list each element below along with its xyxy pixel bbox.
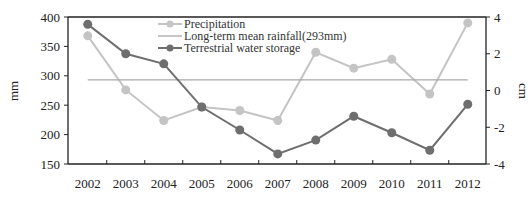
y2-tick-label: 2: [494, 46, 501, 61]
data-point: [83, 20, 92, 29]
x-tick-label: 2005: [189, 176, 215, 191]
y-tick-label: 350: [41, 39, 61, 54]
x-tick-label: 2010: [379, 176, 405, 191]
y2-tick-label: -2: [494, 120, 505, 135]
data-point: [463, 18, 472, 27]
data-point: [349, 112, 358, 121]
data-point: [273, 149, 282, 158]
x-tick-label: 2002: [75, 176, 101, 191]
data-point: [121, 49, 130, 58]
y-tick-label: 300: [41, 68, 61, 83]
x-tick-label: 2011: [417, 176, 443, 191]
x-tick-label: 2004: [151, 176, 178, 191]
legend-marker: [167, 21, 174, 28]
x-tick-label: 2006: [227, 176, 254, 191]
data-point: [235, 126, 244, 135]
chart: 150200250300350400-4-2024200220032004200…: [0, 0, 532, 197]
x-tick-label: 2012: [455, 176, 481, 191]
data-point: [83, 31, 92, 40]
data-point: [387, 128, 396, 137]
x-tick-label: 2003: [113, 176, 139, 191]
data-point: [425, 90, 434, 99]
data-point: [197, 103, 206, 112]
data-point: [273, 116, 282, 125]
data-point: [311, 48, 320, 57]
y-tick-label: 400: [41, 10, 61, 25]
y2-tick-label: -4: [494, 157, 505, 172]
legend-marker: [167, 45, 174, 52]
y-tick-label: 250: [41, 98, 61, 113]
x-tick-label: 2009: [341, 176, 367, 191]
legend-label: Terrestrial water storage: [184, 41, 300, 55]
y2-tick-label: 0: [494, 83, 501, 98]
data-point: [387, 55, 396, 64]
y2-tick-label: 4: [494, 10, 501, 25]
x-tick-label: 2007: [265, 176, 292, 191]
y-tick-label: 200: [41, 127, 61, 142]
data-point: [121, 85, 130, 94]
y-tick-label: 150: [41, 157, 61, 172]
y-axis-title: mm: [6, 81, 21, 101]
data-point: [463, 100, 472, 109]
y2-axis-title: cm: [516, 83, 531, 99]
data-point: [235, 106, 244, 115]
data-point: [349, 64, 358, 73]
data-point: [159, 59, 168, 68]
data-point: [311, 136, 320, 145]
x-tick-label: 2008: [303, 176, 329, 191]
data-point: [159, 116, 168, 125]
data-point: [425, 146, 434, 155]
